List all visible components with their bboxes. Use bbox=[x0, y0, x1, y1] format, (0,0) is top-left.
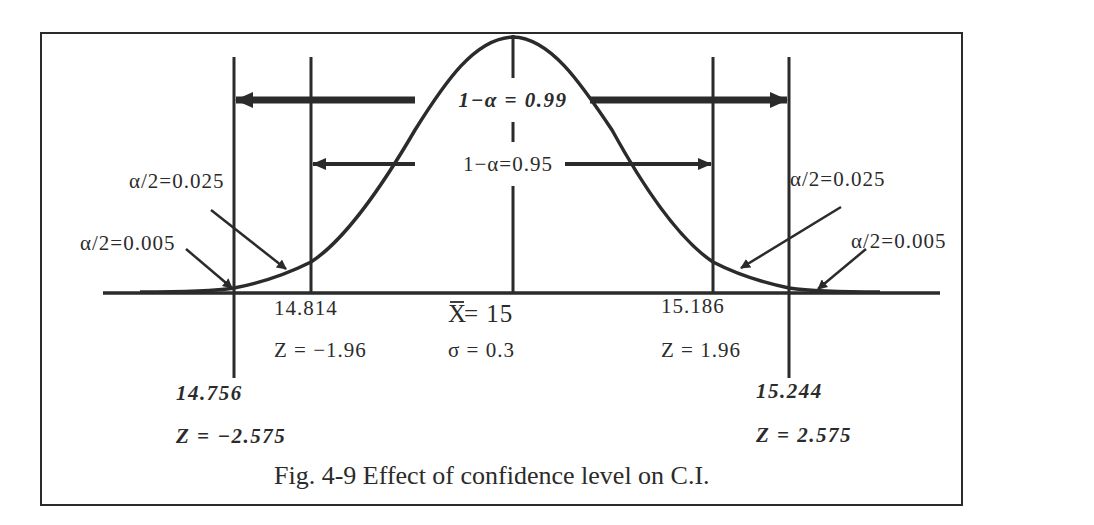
figure-caption: Fig. 4-9 Effect of confidence level on C… bbox=[274, 461, 710, 490]
left-005-pointer bbox=[186, 249, 232, 288]
lower99-value: 14.756 bbox=[176, 381, 243, 405]
upper95-z: Z = 1.96 bbox=[661, 338, 741, 362]
right-alpha-025-label: α/2=0.025 bbox=[790, 167, 885, 191]
upper99-z: Z = 2.575 bbox=[755, 423, 852, 447]
left-alpha-025-label: α/2=0.025 bbox=[129, 169, 224, 193]
upper95-value: 15.186 bbox=[661, 294, 725, 318]
confidence-interval-figure: 1−α = 0.99 1−α=0.95 α/2=0.025 α/2=0.005 … bbox=[0, 0, 1094, 525]
ci95-label: 1−α=0.95 bbox=[463, 152, 553, 176]
sigma-label: σ = 0.3 bbox=[448, 338, 515, 362]
right-025-pointer bbox=[741, 207, 841, 268]
mean-label: X = 15 bbox=[448, 300, 513, 327]
lower99-z: Z = −2.575 bbox=[175, 424, 286, 448]
right-005-pointer bbox=[818, 249, 866, 289]
lower95-value: 14.814 bbox=[274, 296, 338, 320]
right-alpha-005-label: α/2=0.005 bbox=[851, 229, 946, 253]
upper99-value: 15.244 bbox=[756, 379, 823, 403]
lower95-z: Z = −1.96 bbox=[274, 338, 367, 362]
svg-text:= 15: = 15 bbox=[464, 300, 513, 327]
ci99-label: 1−α = 0.99 bbox=[458, 88, 567, 112]
left-alpha-005-label: α/2=0.005 bbox=[80, 231, 175, 255]
left-025-pointer bbox=[211, 210, 286, 269]
